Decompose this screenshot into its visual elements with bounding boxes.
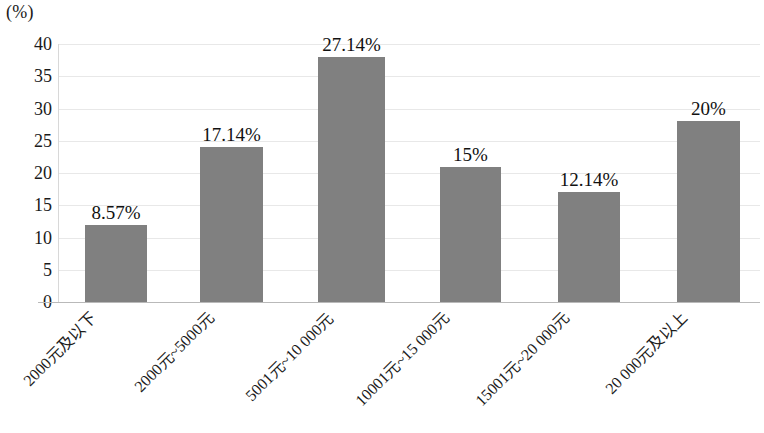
y-axis-tick-label: 5 [6, 261, 52, 279]
bar[interactable] [558, 192, 620, 302]
gridline [59, 44, 760, 45]
gridline [59, 141, 760, 142]
gridline [59, 173, 760, 174]
bar-group[interactable]: 15% [440, 44, 501, 302]
x-axis-tick-label: 2000元~5000元 [131, 309, 218, 396]
plot-area: 8.57%17.14%27.14%15%12.14%20% [59, 44, 760, 302]
bar[interactable] [318, 57, 385, 302]
gridline [59, 76, 760, 77]
bar-group[interactable]: 12.14% [558, 44, 620, 302]
bar-value-label: 20% [691, 99, 726, 118]
bar-value-label: 15% [453, 145, 488, 164]
bar[interactable] [440, 167, 501, 302]
y-axis-tick-label: 25 [6, 132, 52, 150]
x-axis-tick-label: 5001元~10 000元 [242, 309, 337, 404]
bar-value-label: 8.57% [91, 203, 140, 222]
x-axis-tick-label: 20 000元及以上 [602, 309, 691, 398]
x-axis-tick-label: 2000元及以下 [20, 309, 101, 390]
bar[interactable] [677, 121, 740, 302]
x-axis-tick-labels: 2000元及以下2000元~5000元5001元~10 000元10001元~1… [0, 303, 764, 433]
gridline [59, 238, 760, 239]
gridline [59, 109, 760, 110]
y-axis-tick-label: 30 [6, 100, 52, 118]
bar-value-label: 12.14% [560, 170, 619, 189]
y-axis-tick-label: 20 [6, 164, 52, 182]
bar[interactable] [85, 225, 147, 302]
y-axis-tick-labels: 4035302520151050 [0, 44, 52, 302]
x-axis-tick-label: 10001元~15 000元 [352, 309, 453, 410]
y-axis-tick-label: 40 [6, 35, 52, 53]
y-axis-tick-label: 10 [6, 229, 52, 247]
y-axis-unit-label: (%) [6, 2, 34, 22]
gridline [59, 270, 760, 271]
bar-group[interactable]: 8.57% [85, 44, 147, 302]
y-axis-tick-label: 35 [6, 67, 52, 85]
x-axis-tick-label: 15001元~20 000元 [472, 309, 573, 410]
bar-value-label: 17.14% [202, 125, 261, 144]
bar[interactable] [200, 147, 263, 302]
y-axis-tick-label: 15 [6, 196, 52, 214]
bar-group[interactable]: 20% [677, 44, 740, 302]
bar-group[interactable]: 27.14% [318, 44, 385, 302]
bar-chart: (%) 4035302520151050 8.57%17.14%27.14%15… [0, 0, 764, 433]
bar-group[interactable]: 17.14% [200, 44, 263, 302]
gridline [59, 205, 760, 206]
bar-value-label: 27.14% [322, 35, 381, 54]
